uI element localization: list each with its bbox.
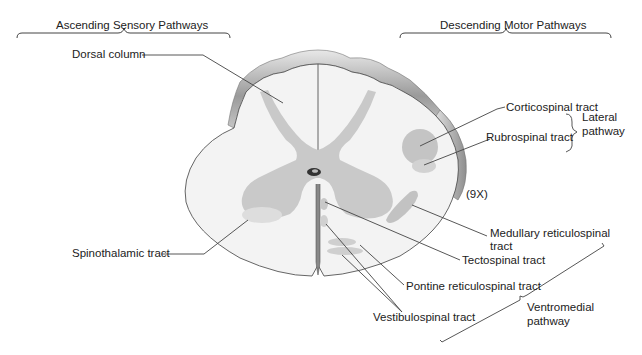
lateral-pathway-label-line2: pathway [582,125,625,138]
ventromedial-pathway-label-line1: Ventromedial [527,301,594,314]
medullary-reticulospinal-label-line1: Medullary reticulospinal [490,227,610,240]
vestibulospinal-tract-label: Vestibulospinal tract [373,311,475,324]
medullary-reticulospinal-label-line2: tract [490,240,512,253]
spinothalamic-tract-label: Spinothalamic tract [72,247,170,260]
tectospinal-tract-label: Tectospinal tract [462,254,545,267]
ventral-median-fissure [316,184,320,275]
ascending-pathways-header: Ascending Sensory Pathways [56,19,208,32]
tectospinal-area [320,198,328,210]
pontine-reticulospinal-area-2 [327,247,363,255]
spinothalamic-area [242,207,282,223]
descending-pathways-header: Descending Motor Pathways [440,19,586,32]
dorsal-column-label: Dorsal column [72,48,146,61]
magnification-label: (9X) [466,188,488,201]
rubrospinal-tract-label: Rubrospinal tract [486,131,573,144]
ventromedial-pathway-label-line2: pathway [527,315,570,328]
lateral-pathway-label-line1: Lateral [582,111,617,124]
rubrospinal-area [412,159,436,173]
pontine-reticulospinal-tract-label: Pontine reticulospinal tract [406,280,541,293]
